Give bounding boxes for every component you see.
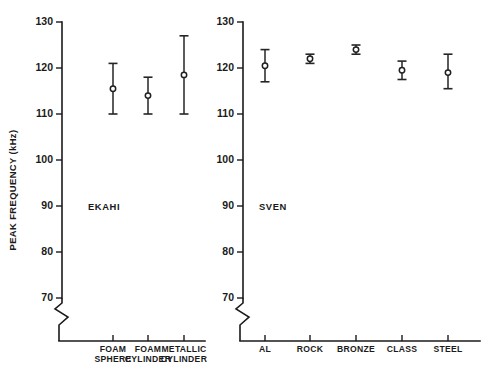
y-tick-label-120: 120 bbox=[216, 61, 234, 73]
x-tick-label-0: FOAM bbox=[100, 344, 127, 354]
data-point-marker bbox=[110, 86, 115, 91]
x-tick-label-3: CLASS bbox=[387, 344, 418, 354]
panel-ekahi: 708090100110120130FOAMSPHEREFOAMCYLINDER… bbox=[35, 15, 207, 364]
error-bar-4 bbox=[444, 54, 453, 88]
error-bar-0 bbox=[261, 50, 270, 82]
y-tick-label-100: 100 bbox=[216, 153, 234, 165]
y-tick-label-130: 130 bbox=[35, 15, 53, 27]
x-tick-label-4: STEEL bbox=[433, 344, 462, 354]
panel-sven: 708090100110120130ALROCKBRONZECLASSSTEEL… bbox=[216, 15, 480, 354]
panel-title: SVEN bbox=[259, 201, 287, 212]
error-bar-1 bbox=[144, 77, 153, 114]
x-tick-label-2: CYLINDER bbox=[161, 354, 208, 364]
error-bar-2 bbox=[180, 36, 189, 114]
y-tick-label-70: 70 bbox=[222, 291, 234, 303]
data-point-marker bbox=[262, 63, 267, 68]
y-tick-label-70: 70 bbox=[41, 291, 53, 303]
error-bar-figure: 708090100110120130FOAMSPHEREFOAMCYLINDER… bbox=[0, 0, 491, 381]
x-tick-label-1: ROCK bbox=[297, 344, 324, 354]
y-tick-label-90: 90 bbox=[222, 199, 234, 211]
x-tick-label-1: FOAM bbox=[135, 344, 162, 354]
y-tick-label-100: 100 bbox=[35, 153, 53, 165]
error-bar-2 bbox=[352, 45, 361, 54]
x-tick-label-2: BRONZE bbox=[337, 344, 375, 354]
data-point-marker bbox=[145, 93, 150, 98]
y-axis-break bbox=[236, 298, 249, 341]
error-bar-1 bbox=[306, 54, 315, 63]
panel-title: EKAHI bbox=[88, 201, 120, 212]
y-axis-title: PEAK FREQUENCY (kHz) bbox=[7, 130, 18, 251]
y-tick-label-120: 120 bbox=[35, 61, 53, 73]
y-tick-label-110: 110 bbox=[217, 107, 234, 119]
y-tick-label-80: 80 bbox=[222, 245, 234, 257]
figure-root: 708090100110120130FOAMSPHEREFOAMCYLINDER… bbox=[0, 0, 491, 381]
error-bar-0 bbox=[109, 63, 118, 114]
y-tick-label-90: 90 bbox=[41, 199, 53, 211]
data-point-marker bbox=[181, 72, 186, 77]
data-point-marker bbox=[353, 47, 358, 52]
y-tick-label-110: 110 bbox=[36, 107, 53, 119]
data-point-marker bbox=[307, 56, 312, 61]
data-point-marker bbox=[399, 68, 404, 73]
x-tick-label-2: METALLIC bbox=[161, 344, 206, 354]
y-tick-label-130: 130 bbox=[216, 15, 234, 27]
data-point-marker bbox=[445, 70, 450, 75]
y-axis-break bbox=[55, 298, 68, 341]
x-tick-label-0: AL bbox=[259, 344, 271, 354]
error-bar-3 bbox=[398, 61, 407, 79]
y-tick-label-80: 80 bbox=[41, 245, 53, 257]
